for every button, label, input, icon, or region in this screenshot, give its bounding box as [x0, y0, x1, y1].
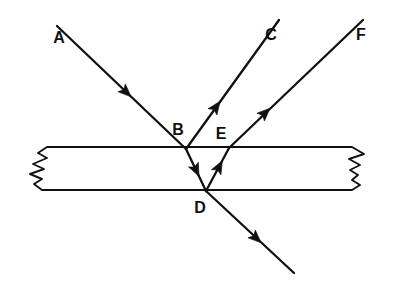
point-label-b: B: [172, 121, 184, 138]
ray-emergent-ray-E-to-F: [229, 20, 363, 148]
ray-diagram-canvas: ABCDEF: [0, 0, 406, 300]
ray-incident-ray-A-to-B: [57, 26, 186, 149]
point-label-a: A: [53, 29, 65, 46]
slab-left-break-zigzag: [30, 147, 122, 190]
arrowhead-refracted-ray-B-to-D: [189, 162, 204, 178]
point-label-f: F: [356, 26, 366, 43]
arrowhead-internally-reflected-ray-D-to-E: [211, 158, 227, 175]
ray-diagram-figure: ABCDEF: [0, 0, 406, 300]
point-label-d: D: [194, 199, 206, 216]
slab-right-break-zigzag: [290, 147, 364, 190]
point-labels-group: ABCDEF: [53, 26, 366, 216]
point-label-e: E: [216, 125, 227, 142]
ray-transmitted-ray-D-downward: [206, 191, 294, 273]
ray-arrowheads-group: [118, 84, 274, 247]
point-label-c: C: [265, 26, 277, 43]
